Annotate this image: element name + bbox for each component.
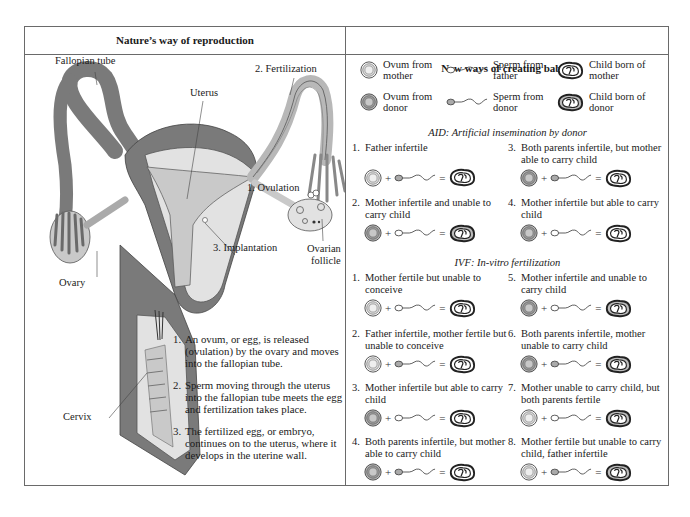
child-mother-icon <box>604 169 632 188</box>
label-follicle: follicle <box>311 255 341 266</box>
sperm-father-icon <box>394 302 436 314</box>
ivf-case-6: 6.Both parents infertile, mother unable … <box>508 328 668 374</box>
ivf-case-3: 3.Mother infertile but able to carry chi… <box>352 382 512 428</box>
sperm-donor-icon <box>394 358 436 370</box>
aid-case-3: 3.Both parents infertile, but mother abl… <box>508 142 668 188</box>
ovum-mother-icon <box>364 169 382 187</box>
aid-section-title: AID: Artificial insemination by donor <box>346 127 669 138</box>
label-ovulation: 1. Ovulation <box>247 182 300 193</box>
ovum-mother-icon <box>364 355 382 373</box>
reproduction-steps-list: 1. An ovum, or egg, is released (ovulati… <box>173 333 348 471</box>
equation: + = <box>520 168 668 188</box>
child-donor-icon <box>604 299 632 318</box>
equation: + = <box>364 223 512 243</box>
left-panel-title: Nature’s way of reproduction <box>25 27 345 54</box>
label-fallopian-tube: Fallopian tube <box>55 55 115 66</box>
aid-case-4: 4.Mother infertile but able to carry chi… <box>508 197 668 243</box>
aid-case-1: 1.Father infertile + = <box>352 142 512 188</box>
label-uterus: Uterus <box>190 87 218 98</box>
sperm-donor-icon <box>550 358 592 370</box>
child-mother-icon <box>448 299 476 318</box>
sperm-donor-icon <box>394 172 436 184</box>
ivf-case-8: 8.Mother fertile but unable to carry chi… <box>508 436 668 482</box>
sperm-donor-icon <box>446 96 488 108</box>
legend-sperm-father: Sperm from father <box>446 59 553 81</box>
legend-ovum-mother: Ovum from mother <box>360 59 443 81</box>
equation: + = <box>520 298 668 318</box>
ovum-donor-icon <box>360 93 378 111</box>
ivf-case-5: 5.Mother infertile and unable to carry c… <box>508 272 668 318</box>
sperm-father-icon <box>550 412 592 424</box>
label-fertilization: 2. Fertilization <box>255 63 317 74</box>
child-mother-icon <box>604 224 632 243</box>
equation: + = <box>520 354 668 374</box>
equation: + = <box>520 462 668 482</box>
equation: + = <box>364 298 512 318</box>
ovum-mother-icon <box>520 409 538 427</box>
label-implantation: 3. Implantation <box>213 242 277 253</box>
ovum-mother-icon <box>520 463 538 481</box>
child-mother-icon <box>448 463 476 482</box>
sperm-father-icon <box>550 227 592 239</box>
child-donor-icon <box>448 224 476 243</box>
legend-sperm-donor: Sperm from donor <box>446 91 553 113</box>
ivf-case-2: 2.Father infertile, mother fertile but u… <box>352 328 512 374</box>
legend-child-mother: Child born of mother <box>556 59 649 81</box>
reproductive-anatomy-diagram: Fallopian tube Uterus 2. Fertilization 1… <box>25 55 345 485</box>
ivf-section-title: IVF: In-vitro fertilization <box>346 257 669 268</box>
label-ovary: Ovary <box>59 277 85 288</box>
label-ovarian: Ovarian <box>307 243 341 254</box>
ivf-case-4: 4.Both parents infertile, but mother abl… <box>352 436 512 482</box>
ovum-donor-icon <box>520 224 538 242</box>
new-ways-panel: Ovum from mother Sperm from father Child… <box>346 55 669 485</box>
ovum-donor-icon <box>364 409 382 427</box>
step-item: 2. Sperm moving through the uterus into … <box>173 379 348 415</box>
label-cervix: Cervix <box>63 411 92 422</box>
legend-row: Ovum from donor Sperm from donor Child b… <box>346 91 669 121</box>
equation: + = <box>364 168 512 188</box>
child-mother-icon <box>448 409 476 428</box>
sperm-donor-icon <box>550 172 592 184</box>
legend-row: Ovum from mother Sperm from father Child… <box>346 59 669 89</box>
sperm-donor-icon <box>550 466 592 478</box>
ovum-mother-icon <box>360 61 378 79</box>
ivf-case-1: 1.Mother fertile but unable to conceive … <box>352 272 512 318</box>
ovum-donor-icon <box>364 463 382 481</box>
sperm-father-icon <box>550 302 592 314</box>
equation: + = <box>520 408 668 428</box>
ovum-donor-icon <box>520 169 538 187</box>
ovum-donor-icon <box>520 299 538 317</box>
sperm-father-icon <box>394 227 436 239</box>
aid-case-2: 2.Mother infertile and unable to carry c… <box>352 197 512 243</box>
sperm-father-icon <box>394 412 436 424</box>
step-item: 1. An ovum, or egg, is released (ovulati… <box>173 333 348 369</box>
sperm-father-icon <box>446 64 488 76</box>
sperm-donor-icon <box>394 466 436 478</box>
child-donor-icon <box>604 463 632 482</box>
ovum-mother-icon <box>364 299 382 317</box>
legend-child-donor: Child born of donor <box>556 91 649 113</box>
ovum-donor-icon <box>364 224 382 242</box>
child-mother-icon <box>448 168 476 187</box>
equation: + = <box>364 354 512 374</box>
child-mother-icon <box>556 61 584 80</box>
figure-frame: Nature’s way of reproduction New ways of… <box>24 26 669 486</box>
ovum-donor-icon <box>520 355 538 373</box>
legend-ovum-donor: Ovum from donor <box>360 91 443 113</box>
equation: + = <box>520 223 668 243</box>
equation: + = <box>364 462 512 482</box>
equation: + = <box>364 408 512 428</box>
ivf-case-7: 7.Mother unable to carry child, but both… <box>508 382 668 428</box>
child-donor-icon <box>604 355 632 374</box>
child-donor-icon <box>556 93 584 112</box>
child-mother-icon <box>448 355 476 374</box>
child-donor-icon <box>604 409 632 428</box>
step-item: 3. The fertilized egg, or embryo, contin… <box>173 425 348 461</box>
